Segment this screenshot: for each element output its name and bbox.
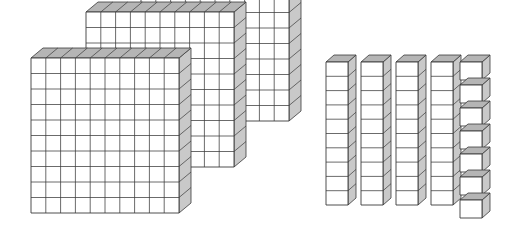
base-ten-blocks-figure: Base-ten blocks representation 347 Flats… (0, 0, 510, 230)
unit-cube-3 (460, 101, 490, 126)
unit-cube-7 (460, 193, 490, 218)
unit-cube-1-front-face (460, 62, 482, 80)
flat-1 (31, 48, 191, 213)
ones-units-group (460, 55, 490, 218)
flat-3-side-face (289, 0, 301, 121)
unit-cube-5-front-face (460, 154, 482, 172)
unit-cube-5 (460, 147, 490, 172)
unit-cube-4 (460, 124, 490, 149)
unit-cube-2-front-face (460, 85, 482, 103)
hundreds-flats-group (31, 0, 301, 213)
rod-4 (431, 55, 461, 205)
unit-cube-3-front-face (460, 108, 482, 126)
unit-cube-6 (460, 170, 490, 195)
rod-1 (326, 55, 356, 205)
unit-cube-7-front-face (460, 200, 482, 218)
tens-rods-group (326, 55, 461, 205)
unit-cube-2 (460, 78, 490, 103)
unit-cube-6-front-face (460, 177, 482, 195)
rod-3 (396, 55, 426, 205)
unit-cube-4-front-face (460, 131, 482, 149)
base-ten-blocks-canvas (0, 0, 510, 230)
unit-cube-1 (460, 55, 490, 80)
rod-2 (361, 55, 391, 205)
